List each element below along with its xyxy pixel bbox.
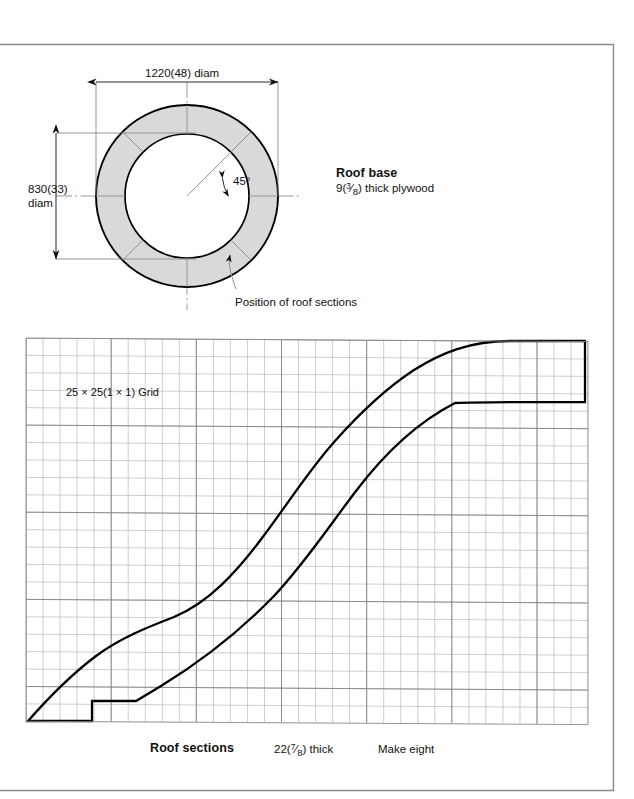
caption-roof-base-subtitle: 9(3⁄8) thick plywood: [336, 181, 434, 198]
angle-label-45: 45°: [233, 174, 250, 188]
roof-base-thickness-tail: ) thick plywood: [358, 182, 434, 194]
grid-scale-note: 25 × 25(1 × 1) Grid: [66, 386, 159, 399]
caption-roof-sections-thickness: 22(7⁄8) thick: [274, 742, 333, 759]
fraction-numerator: 3: [346, 182, 351, 191]
roof-sections-thickness-tail: ) thick: [302, 743, 333, 755]
fraction-numerator: 7: [291, 743, 296, 752]
dimension-label-inner-diameter-line1: 830(33): [28, 182, 68, 196]
caption-roof-base-title: Roof base: [336, 166, 397, 181]
roof-base-thickness-fraction: 3⁄8: [346, 182, 358, 194]
leader-label-position-of-roof-sections: Position of roof sections: [235, 295, 357, 309]
roof-sections-thickness-number: 22(: [274, 743, 291, 755]
dimension-label-outer-diameter: 1220(48) diam: [145, 66, 219, 80]
roof-base-thickness-number: 9(: [336, 182, 346, 194]
caption-roof-sections-title: Roof sections: [150, 741, 234, 756]
caption-roof-sections-quantity: Make eight: [378, 742, 434, 756]
drawing-canvas: [0, 0, 634, 799]
roof-base-figure: [56, 82, 300, 310]
roof-sections-thickness-fraction: 7⁄8: [291, 743, 303, 755]
drawing-page: 1220(48) diam 830(33) diam 45° Position …: [0, 0, 634, 799]
dimension-label-inner-diameter-line2: diam: [28, 196, 53, 210]
